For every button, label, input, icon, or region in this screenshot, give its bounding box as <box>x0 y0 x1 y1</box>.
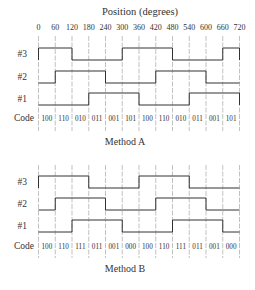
tick-label: 0 <box>37 23 41 32</box>
tick-label: 480 <box>167 23 179 32</box>
code-value: 110 <box>159 243 170 251</box>
code-label: Code <box>14 241 34 251</box>
code-value: 010 <box>175 115 186 123</box>
encoder-timing-diagram: Position (degrees) 060120180240300360420… <box>0 0 255 290</box>
tick-label: 120 <box>66 23 78 32</box>
tick-label: 600 <box>200 23 212 32</box>
channel-label: #1 <box>18 221 28 231</box>
code-value: 001 <box>108 115 119 123</box>
code-value: 100 <box>142 115 153 123</box>
code-value: 001 <box>209 115 220 123</box>
tick-label: 660 <box>217 23 229 32</box>
code-value: 001 <box>209 243 220 251</box>
code-value: 010 <box>75 115 86 123</box>
code-value: 110 <box>58 243 69 251</box>
code-value: 100 <box>41 115 52 123</box>
tick-label: 720 <box>234 23 246 32</box>
axis-title: Position (degrees) <box>102 6 179 18</box>
code-value: 011 <box>192 243 203 251</box>
code-value: 011 <box>92 243 103 251</box>
code-value: 110 <box>159 115 170 123</box>
diagram-caption: Method B <box>105 263 146 274</box>
code-label: Code <box>14 113 34 123</box>
diagram-caption: Method A <box>105 136 146 147</box>
code-value: 101 <box>125 115 136 123</box>
tick-label: 60 <box>51 23 59 32</box>
channel-label: #2 <box>18 199 28 209</box>
code-value: 101 <box>226 115 237 123</box>
channel-label: #3 <box>18 177 28 187</box>
code-value: 000 <box>125 243 136 251</box>
tick-labels: 060120180240300360420480540600660720 <box>37 23 246 32</box>
tick-label: 420 <box>150 23 162 32</box>
channel-label: #2 <box>18 72 28 82</box>
tick-label: 360 <box>133 23 145 32</box>
tick-label: 240 <box>100 23 112 32</box>
code-value: 100 <box>142 243 153 251</box>
method-b-diagram: #3#2#1Code100110111011001000100110111011… <box>14 165 240 274</box>
method-a-diagram: #3#2#1Code100110010011001101100110010011… <box>14 36 240 147</box>
channel-waveform <box>39 93 240 105</box>
code-value: 000 <box>226 243 237 251</box>
tick-label: 300 <box>116 23 128 32</box>
code-value: 100 <box>41 243 52 251</box>
channel-label: #1 <box>18 94 28 104</box>
code-value: 110 <box>58 115 69 123</box>
channel-waveform <box>39 176 240 188</box>
code-value: 111 <box>75 243 86 251</box>
tick-label: 180 <box>83 23 95 32</box>
code-value: 011 <box>92 115 103 123</box>
code-value: 111 <box>176 243 187 251</box>
code-value: 001 <box>108 243 119 251</box>
code-value: 011 <box>192 115 203 123</box>
tick-label: 540 <box>183 23 195 32</box>
channel-label: #3 <box>18 49 28 59</box>
